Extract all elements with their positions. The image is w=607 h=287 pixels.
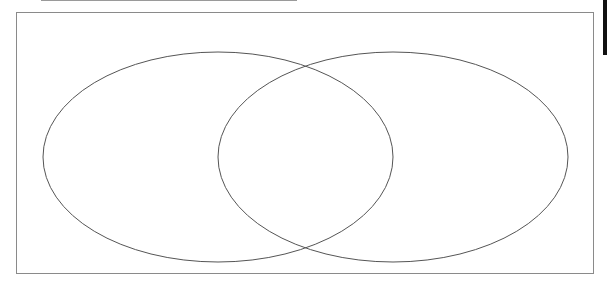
venn-diagram [0, 0, 607, 287]
